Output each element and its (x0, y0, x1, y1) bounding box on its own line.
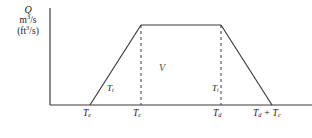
x-tick-label-tc: Tc (133, 108, 141, 119)
falling-limb-label: Tt (212, 83, 219, 93)
x-tick-label-td-plus-tc: Td + Tc (253, 108, 281, 119)
rising-limb-label: Tt (107, 83, 114, 93)
y-axis-label: Q m3/s (ft3/s) (8, 4, 48, 36)
center-mark: V (159, 62, 165, 73)
falling-limb (221, 25, 272, 105)
x-tick-label-te: Te (83, 108, 91, 119)
x-tick-label-td: Td (213, 108, 221, 119)
y-axis-unit-imperial: (ft3/s) (8, 26, 48, 37)
hydrograph-figure: Q m3/s (ft3/s) Te Tc Td Td + Tc Tt Tt V (0, 0, 312, 138)
rising-limb (90, 25, 141, 105)
